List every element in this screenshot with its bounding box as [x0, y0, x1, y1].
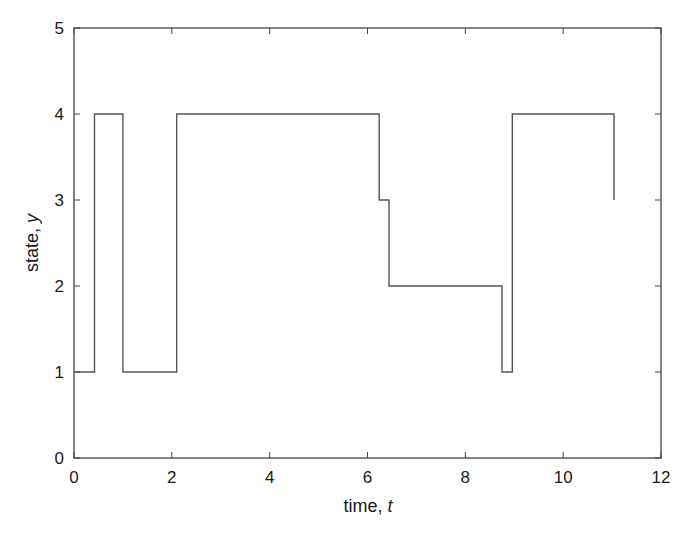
y-tick-label: 3 [55, 191, 64, 210]
y-tick-label: 1 [55, 363, 64, 382]
plot-frame [74, 28, 661, 458]
y-tick-label: 4 [55, 105, 64, 124]
x-tick-label: 0 [69, 468, 78, 487]
y-tick-label: 5 [55, 19, 64, 38]
x-axis-label: time, t [343, 496, 393, 516]
x-tick-label: 6 [363, 468, 372, 487]
y-tick-label: 2 [55, 277, 64, 296]
step-chart: 024681012012345 time, t state, y [0, 0, 685, 542]
x-tick-label: 8 [461, 468, 470, 487]
y-tick-label: 0 [55, 449, 64, 468]
y-axis-label: state, y [22, 213, 42, 272]
x-tick-label: 2 [167, 468, 176, 487]
x-tick-label: 12 [652, 468, 671, 487]
x-tick-label: 10 [554, 468, 573, 487]
plot-border [74, 28, 661, 458]
x-tick-label: 4 [265, 468, 274, 487]
tick-labels: 024681012012345 [55, 19, 671, 487]
data-series [74, 114, 614, 372]
state-step-line [74, 114, 614, 372]
axis-ticks [74, 28, 661, 458]
